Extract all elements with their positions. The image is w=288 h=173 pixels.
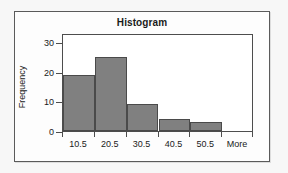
bar[interactable] [63, 75, 95, 131]
bar[interactable] [95, 57, 127, 131]
x-tick-mark [252, 132, 253, 137]
bar[interactable] [159, 119, 191, 131]
x-tick-label: 10.5 [69, 139, 87, 149]
bar[interactable] [127, 104, 159, 131]
y-tick-label: 20 [44, 68, 54, 77]
x-tick-mark [126, 132, 127, 137]
x-tick-label: More [227, 139, 248, 149]
x-tick-mark [158, 132, 159, 137]
screenshot-canvas: Histogram Frequency 0102030 10.520.530.5… [0, 0, 288, 173]
bar[interactable] [190, 122, 222, 131]
histogram-chart-object[interactable]: Histogram Frequency 0102030 10.520.530.5… [14, 11, 270, 162]
x-tick-mark [221, 132, 222, 137]
y-axis-title: Frequency [18, 65, 27, 108]
x-tick-label: 30.5 [133, 139, 151, 149]
x-tick-label: 40.5 [165, 139, 183, 149]
bar-series [63, 35, 252, 131]
y-tick-label: 10 [44, 98, 54, 107]
x-tick-mark [94, 132, 95, 137]
x-tick-mark [189, 132, 190, 137]
y-tick-label: 30 [44, 38, 54, 47]
x-tick-label: 20.5 [101, 139, 119, 149]
x-tick-mark [62, 132, 63, 137]
y-tick-label: 0 [49, 128, 54, 137]
plot-area [62, 34, 253, 132]
x-tick-label: 50.5 [196, 139, 214, 149]
y-axis: Frequency 0102030 [15, 12, 62, 161]
x-axis: 10.520.530.540.550.5More [62, 132, 253, 162]
